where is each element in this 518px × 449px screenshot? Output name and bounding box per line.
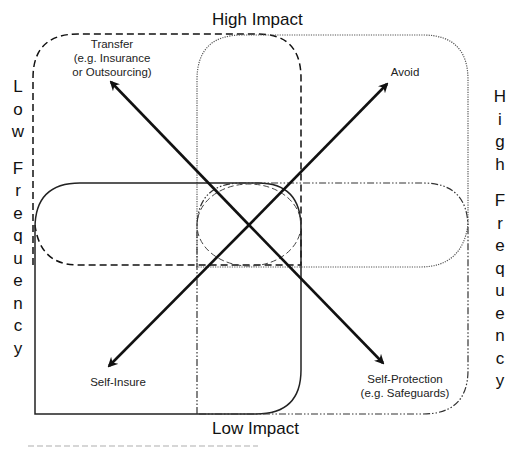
arrow-to-self-protection <box>249 225 383 363</box>
axis-label-high-impact: High Impact <box>212 10 303 30</box>
arrow-to-avoid <box>249 84 387 225</box>
strategy-label-avoid: Avoid <box>383 65 427 79</box>
strategy-label-self-protection: Self-Protection (e.g. Safeguards) <box>350 372 460 400</box>
axis-label-low-frequency: L o w F r e q u e n c y <box>6 76 30 360</box>
axis-label-low-impact: Low Impact <box>212 419 299 439</box>
cropped-caption <box>28 444 258 449</box>
axis-label-high-frequency: H i g h F r e q u e n c y <box>488 86 512 393</box>
avoid-region-outline <box>197 35 468 267</box>
arrow-to-self-insure <box>109 225 249 366</box>
arrow-to-transfer <box>111 82 249 225</box>
strategy-label-self-insure: Self-Insure <box>78 375 158 389</box>
strategy-label-transfer: Transfer (e.g. Insurance or Outsourcing) <box>62 37 162 79</box>
self-insure-region-outline <box>35 183 301 414</box>
